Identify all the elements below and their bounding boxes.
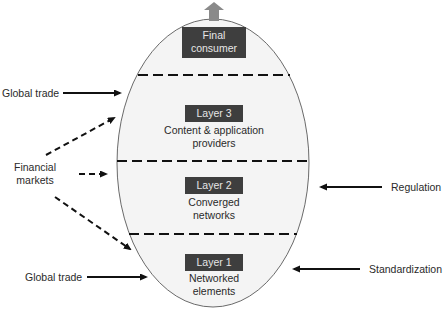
global-trade-bottom-label: Global trade bbox=[25, 271, 82, 284]
layer3-box: Layer 3 bbox=[185, 105, 243, 122]
layer1-title: Layer 1 bbox=[196, 256, 231, 268]
up-arrow-icon bbox=[204, 2, 224, 21]
final-consumer-box: Final consumer bbox=[182, 27, 246, 58]
layer1-description: Networked elements bbox=[189, 272, 239, 298]
financial-markets-line1: Financial bbox=[14, 161, 56, 174]
layer1-desc-line2: elements bbox=[189, 285, 239, 298]
financial-markets-line2: markets bbox=[14, 174, 56, 187]
standardization-label: Standardization bbox=[369, 263, 442, 276]
final-consumer-line1: Final bbox=[182, 29, 246, 42]
layer3-description: Content & application providers bbox=[164, 124, 264, 150]
layer1-desc-line1: Networked bbox=[189, 272, 239, 285]
layer2-description: Converged networks bbox=[188, 196, 239, 222]
final-consumer-line2: consumer bbox=[182, 42, 246, 55]
regulation-label: Regulation bbox=[391, 181, 441, 194]
layer2-desc-line1: Converged bbox=[188, 196, 239, 209]
layer2-desc-line2: networks bbox=[188, 209, 239, 222]
layer2-title: Layer 2 bbox=[196, 179, 231, 191]
layer3-desc-line2: providers bbox=[164, 137, 264, 150]
financial-to-layer3-arrow bbox=[46, 118, 114, 155]
layer3-title: Layer 3 bbox=[196, 107, 231, 119]
layer2-box: Layer 2 bbox=[185, 177, 243, 194]
layer1-box: Layer 1 bbox=[185, 254, 243, 271]
financial-to-layer1-arrow bbox=[55, 197, 130, 249]
layer3-desc-line1: Content & application bbox=[164, 124, 264, 137]
global-trade-top-label: Global trade bbox=[2, 87, 59, 100]
financial-markets-label: Financial markets bbox=[14, 161, 56, 187]
